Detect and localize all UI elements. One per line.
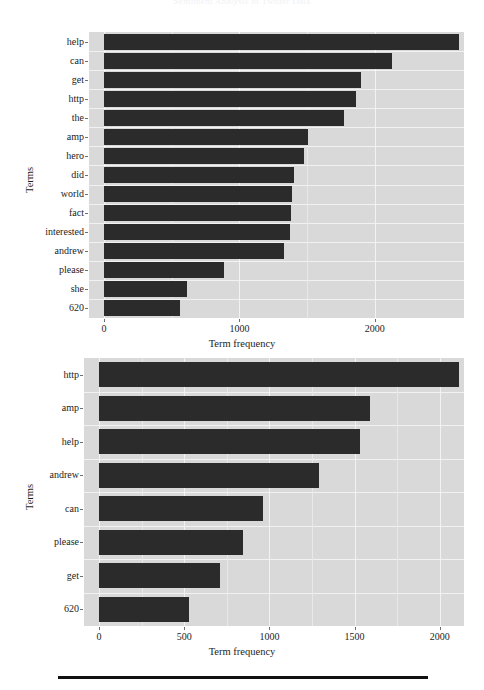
y-tick-label: http (0, 94, 84, 104)
y-tick-label: please (0, 265, 84, 275)
y-tick-label: help (0, 437, 79, 447)
plot-panel (89, 32, 464, 318)
y-tick-mark (80, 576, 83, 577)
bar (99, 362, 459, 387)
y-tick-mark (85, 232, 88, 233)
bar (99, 530, 243, 555)
x-tick-label: 0 (74, 632, 124, 642)
y-tick-label: can (0, 504, 79, 514)
plot-panel (84, 358, 464, 626)
bar (99, 463, 319, 488)
bar (104, 53, 392, 69)
y-tick-label: http (0, 370, 79, 380)
grid-line-horizontal (89, 146, 464, 147)
y-tick-label: please (0, 537, 79, 547)
bar (104, 129, 308, 145)
x-tick-label: 1500 (330, 632, 380, 642)
y-tick-mark (85, 137, 88, 138)
bar (99, 563, 220, 588)
y-axis-label: Terms (24, 167, 35, 193)
y-tick-mark (85, 61, 88, 62)
y-tick-label: get (0, 75, 84, 85)
bar (104, 205, 291, 221)
y-tick-mark (85, 80, 88, 81)
y-tick-label: get (0, 571, 79, 581)
y-tick-label: amp (0, 403, 79, 413)
grid-line-horizontal (89, 127, 464, 128)
y-tick-mark (85, 99, 88, 100)
y-tick-mark (80, 408, 83, 409)
y-tick-mark (80, 442, 83, 443)
x-tick-label: 2000 (415, 632, 465, 642)
bar (104, 34, 459, 50)
y-tick-label: 620 (0, 303, 84, 313)
y-tick-mark (85, 118, 88, 119)
bar (104, 148, 304, 164)
y-tick-mark (85, 289, 88, 290)
x-tick-label: 2000 (350, 324, 400, 334)
x-tick-mark (184, 627, 185, 630)
x-tick-mark (440, 627, 441, 630)
bar (104, 224, 290, 240)
y-tick-mark (80, 609, 83, 610)
y-tick-label: the (0, 113, 84, 123)
grid-line-vertical (375, 32, 376, 318)
y-tick-label: she (0, 284, 84, 294)
bar (99, 496, 263, 521)
grid-line-vertical (440, 358, 441, 626)
bar (104, 167, 294, 183)
y-tick-mark (85, 308, 88, 309)
bar (99, 597, 189, 622)
y-tick-label: did (0, 170, 84, 180)
bar (104, 110, 344, 126)
chart-bottom: httpamphelpandrewcanpleaseget62005001000… (0, 350, 484, 668)
x-tick-mark (355, 627, 356, 630)
y-tick-label: world (0, 189, 84, 199)
grid-line-horizontal (89, 165, 464, 166)
chart-top: helpcangethttptheampherodidworldfactinte… (0, 18, 484, 338)
bar (104, 243, 284, 259)
x-tick-mark (269, 627, 270, 630)
y-tick-label: amp (0, 132, 84, 142)
y-tick-label: andrew (0, 246, 84, 256)
x-tick-label: 1000 (244, 632, 294, 642)
y-tick-mark (80, 509, 83, 510)
grid-line-vertical-minor (397, 358, 398, 626)
bar (104, 91, 356, 107)
y-tick-label: andrew (0, 470, 79, 480)
y-tick-label: interested (0, 227, 84, 237)
bar (99, 429, 360, 454)
x-tick-mark (104, 319, 105, 322)
y-axis-label: Terms (24, 484, 35, 510)
bar (104, 72, 361, 88)
y-tick-mark (80, 475, 83, 476)
y-tick-mark (85, 42, 88, 43)
y-tick-label: hero (0, 151, 84, 161)
y-tick-mark (85, 251, 88, 252)
y-tick-mark (85, 213, 88, 214)
y-tick-mark (85, 270, 88, 271)
bar (104, 262, 224, 278)
bar (99, 396, 370, 421)
bottom-rule (58, 676, 428, 679)
y-tick-label: can (0, 56, 84, 66)
running-head: Sentiment Analysis of Twitter Data (0, 0, 484, 8)
y-tick-label: help (0, 37, 84, 47)
bar (104, 300, 180, 316)
y-tick-mark (85, 175, 88, 176)
x-tick-label: 0 (79, 324, 129, 334)
x-axis-label: Term frequency (0, 338, 484, 349)
y-tick-mark (85, 194, 88, 195)
x-tick-mark (99, 627, 100, 630)
bar (104, 186, 292, 202)
y-tick-mark (80, 375, 83, 376)
y-tick-mark (80, 542, 83, 543)
x-tick-label: 500 (159, 632, 209, 642)
x-tick-mark (239, 319, 240, 322)
y-tick-label: 620 (0, 604, 79, 614)
bar (104, 281, 187, 297)
x-tick-mark (375, 319, 376, 322)
y-tick-label: fact (0, 208, 84, 218)
x-axis-label: Term frequency (0, 646, 484, 657)
y-tick-mark (85, 156, 88, 157)
